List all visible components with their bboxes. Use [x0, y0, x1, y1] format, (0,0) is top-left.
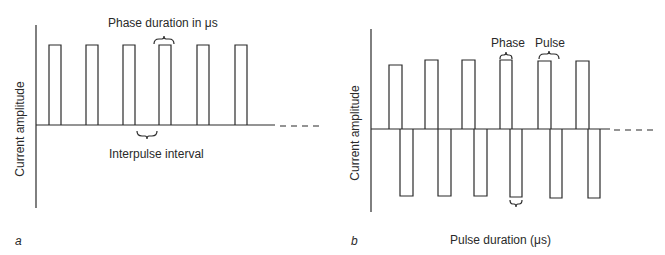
- phase-brace: [500, 52, 512, 59]
- panel-a-pulses: [49, 45, 247, 125]
- phase-duration-label: Phase duration in μs: [108, 16, 218, 30]
- panel-b-letter: b: [351, 234, 358, 248]
- pulse-label: Pulse: [535, 36, 565, 50]
- phase-duration-brace: [154, 36, 174, 44]
- phase-label: Phase: [491, 36, 525, 50]
- panel-a-letter: a: [15, 234, 22, 248]
- panel-b-x-axis-label: Pulse duration (μs): [450, 233, 551, 247]
- panel-b-graphics: [371, 29, 655, 212]
- diagram-canvas: [0, 0, 665, 255]
- panel-b-negative-phases: [400, 129, 600, 198]
- panel-a-graphics: [36, 25, 320, 208]
- interpulse-interval-label: Interpulse interval: [109, 147, 204, 161]
- pulse-brace: [539, 51, 559, 59]
- panel-b-positive-phases: [389, 60, 589, 129]
- panel-a-y-axis-label: Current amplitude: [13, 76, 27, 182]
- negative-phase-brace: [510, 200, 522, 207]
- interpulse-brace: [137, 131, 157, 139]
- panel-b-y-axis-label: Current amplitude: [348, 80, 362, 186]
